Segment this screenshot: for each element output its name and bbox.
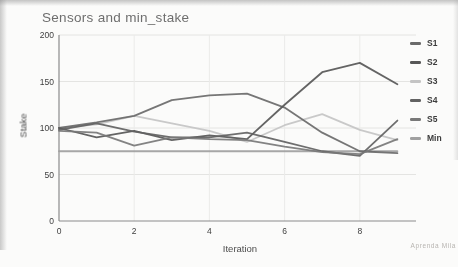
line-chart-plot-area: 05010015020002468 [0, 0, 458, 267]
legend-label: S1 [427, 39, 437, 48]
legend-swatch-icon [410, 99, 421, 102]
legend-item-s4: S4 [410, 91, 442, 110]
series-line-s1 [59, 94, 397, 154]
legend-item-s1: S1 [410, 34, 442, 53]
legend-swatch-icon [410, 118, 421, 121]
x-axis-title: Iteration [200, 243, 280, 254]
series-line-s2 [59, 63, 397, 140]
legend-label: S4 [427, 96, 437, 105]
x-tick-label: 2 [132, 226, 137, 236]
chart-legend: S1S2S3S4S5Min [410, 34, 442, 148]
legend-swatch-icon [410, 80, 421, 83]
y-tick-label: 100 [40, 123, 54, 133]
legend-swatch-icon [410, 137, 421, 140]
legend-label: S2 [427, 58, 437, 67]
legend-label: S5 [427, 115, 437, 124]
y-tick-label: 50 [45, 170, 55, 180]
x-tick-label: 4 [207, 226, 212, 236]
legend-item-s3: S3 [410, 72, 442, 91]
legend-swatch-icon [410, 61, 421, 64]
y-axis-title: Stake [18, 111, 29, 141]
legend-item-min: Min [410, 129, 442, 148]
y-tick-label: 150 [40, 77, 54, 87]
legend-item-s2: S2 [410, 53, 442, 72]
x-tick-label: 0 [57, 226, 62, 236]
legend-swatch-icon [410, 42, 421, 45]
y-tick-label: 0 [49, 216, 54, 226]
legend-label: S3 [427, 77, 437, 86]
legend-label: Min [427, 134, 442, 143]
y-tick-label: 200 [40, 30, 54, 40]
photo-watermark: Aprenda Mila [392, 242, 456, 249]
x-tick-label: 6 [282, 226, 287, 236]
legend-item-s5: S5 [410, 110, 442, 129]
x-tick-label: 8 [357, 226, 362, 236]
